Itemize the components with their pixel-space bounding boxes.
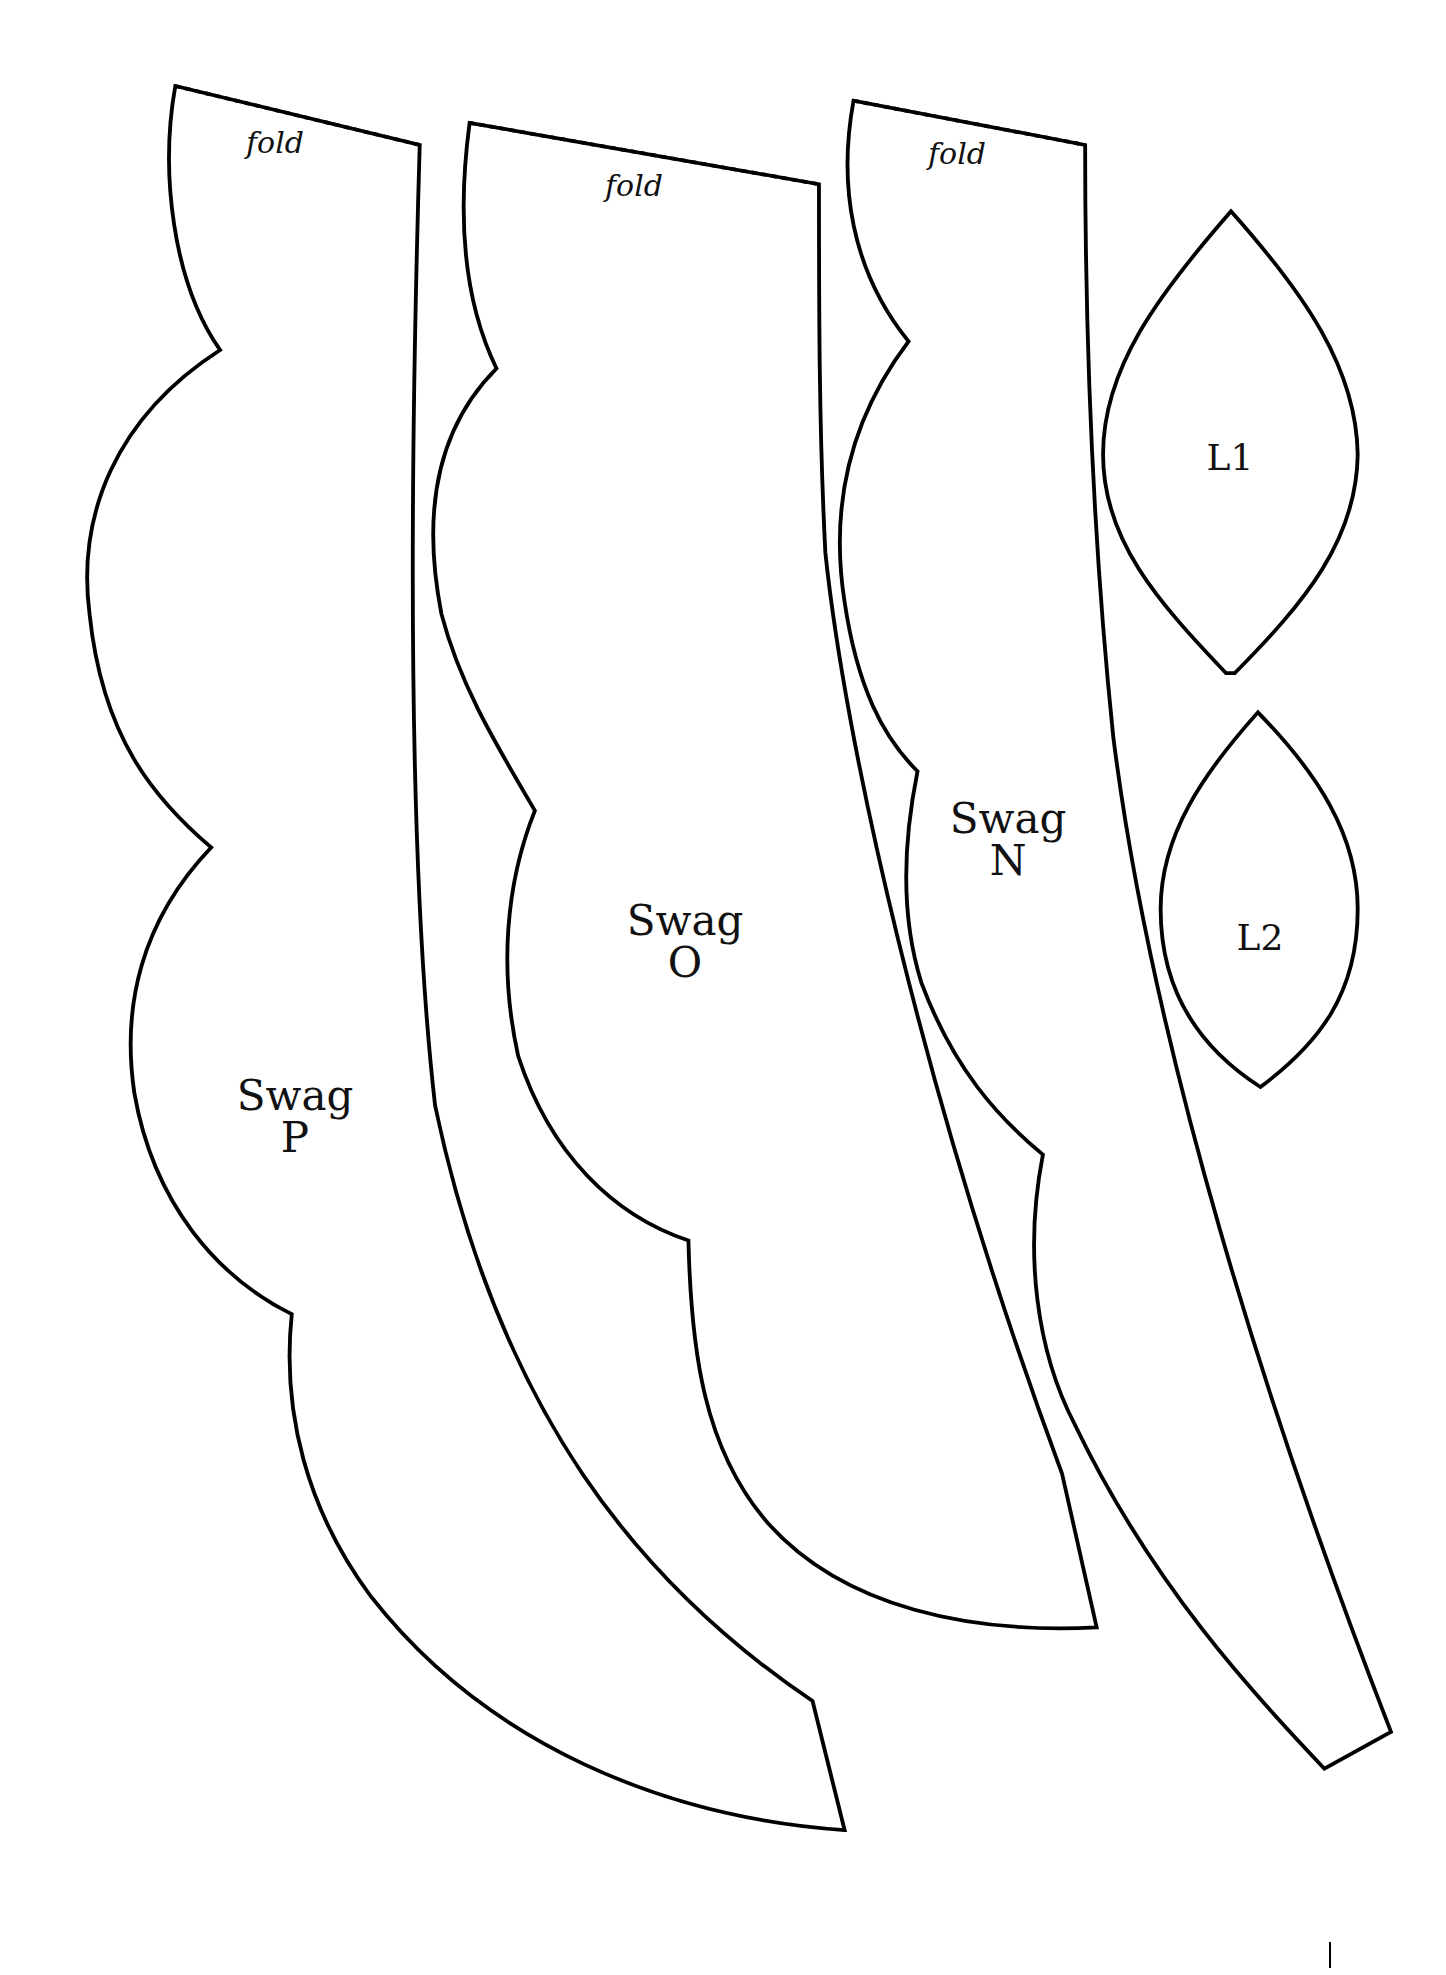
swag-p-label: Swag P (235, 1075, 355, 1159)
swag-p-name: Swag (235, 1075, 355, 1117)
swag-n-label: Swag N (948, 798, 1068, 882)
page-edge-mark (1329, 1942, 1331, 1968)
leaf-l1-label: L1 (1190, 440, 1270, 476)
leaf-l2-piece (1161, 712, 1358, 1087)
swag-n-fold-label: fold (928, 136, 986, 171)
swag-p-fold-label: fold (246, 125, 304, 160)
swag-n-letter: N (948, 840, 1068, 882)
swag-o-label: Swag O (625, 900, 745, 984)
swag-o-name: Swag (625, 900, 745, 942)
swag-o-letter: O (625, 942, 745, 984)
leaf-l2-label: L2 (1220, 920, 1300, 956)
swag-o-fold-label: fold (605, 168, 663, 203)
swag-n-name: Swag (948, 798, 1068, 840)
pattern-sheet (0, 0, 1446, 1975)
swag-p-letter: P (235, 1117, 355, 1159)
